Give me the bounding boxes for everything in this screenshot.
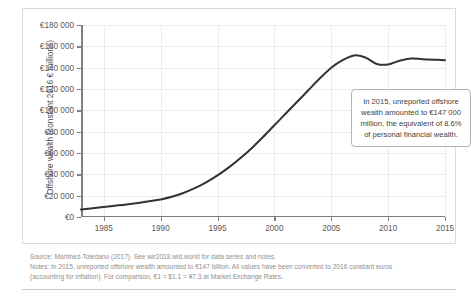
y-axis-tick xyxy=(77,217,81,218)
y-axis-tick-label: €160 000 xyxy=(40,42,74,51)
notes-line-1: Notes: In 2015, unreported offshore weal… xyxy=(30,262,450,272)
x-axis-tick-label: 1990 xyxy=(152,224,170,233)
y-axis-tick-label: €180 000 xyxy=(40,21,74,30)
y-axis-tick-label: €40 000 xyxy=(44,170,74,179)
x-axis-tick-label: 2000 xyxy=(265,224,283,233)
y-axis-tick-label: €120 000 xyxy=(40,85,74,94)
y-axis-tick-label: €20 000 xyxy=(44,191,74,200)
x-axis-tick-label: 2005 xyxy=(322,224,340,233)
x-axis-tick-label: 2010 xyxy=(379,224,397,233)
x-axis-tick xyxy=(445,217,446,221)
y-axis-tick-label: €80 000 xyxy=(44,127,74,136)
y-axis-tick-label: €0 xyxy=(65,213,74,222)
x-axis-tick xyxy=(161,217,162,221)
x-axis-tick-label: 1985 xyxy=(95,224,113,233)
x-axis-tick-label: 1995 xyxy=(208,224,226,233)
footnotes: Source: Martínez-Toledano (2017). See wi… xyxy=(30,252,450,282)
footer-divider xyxy=(22,289,456,290)
annotation-callout: In 2015, unreported offshore wealth amou… xyxy=(351,89,471,147)
x-axis-tick xyxy=(104,217,105,221)
y-axis-tick-label: €60 000 xyxy=(44,149,74,158)
y-axis-tick-label: €100 000 xyxy=(40,106,74,115)
x-axis-tick xyxy=(331,217,332,221)
source-note: Source: Martínez-Toledano (2017). See wi… xyxy=(30,252,450,262)
chart-frame: Offshore wealth (constant 2016 € million… xyxy=(22,8,456,244)
notes-line-2: (accounting for inflation). For comparis… xyxy=(30,272,450,282)
x-axis-tick-label: 2015 xyxy=(436,224,454,233)
x-axis-tick xyxy=(218,217,219,221)
x-axis-tick xyxy=(388,217,389,221)
y-axis-tick-label: €140 000 xyxy=(40,63,74,72)
x-axis-tick xyxy=(274,217,275,221)
chart-page: Offshore wealth (constant 2016 € million… xyxy=(0,0,471,305)
